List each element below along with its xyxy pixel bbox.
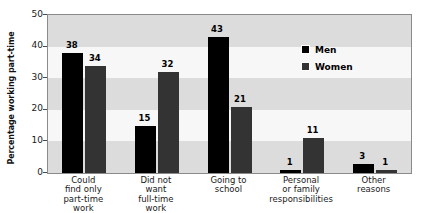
men-swatch-icon — [301, 45, 310, 54]
bar-women-group-3 — [303, 138, 324, 173]
x-axis-category-label: Couldfind onlypart-timework — [47, 176, 120, 213]
bar-women-group-4 — [376, 170, 397, 173]
bar-value-label: 1 — [369, 158, 402, 167]
bar-value-label: 34 — [78, 54, 111, 63]
bar-value-label: 15 — [128, 114, 161, 123]
bar-women-group-1 — [158, 72, 179, 173]
bar-value-label: 1 — [273, 158, 306, 167]
legend-item-men[interactable]: Men — [301, 42, 387, 57]
bar-men-group-2 — [208, 37, 229, 173]
bar-value-label: 43 — [201, 25, 234, 34]
chart-legend: Men Women — [301, 42, 387, 76]
legend-item-women[interactable]: Women — [301, 59, 387, 74]
bar-value-label: 38 — [55, 41, 88, 50]
bar-value-label: 21 — [224, 95, 257, 104]
y-axis-tick-label: 50 — [22, 10, 43, 19]
bar-women-group-0 — [85, 66, 106, 173]
legend-label-men: Men — [315, 45, 336, 55]
y-axis-tick-labels: 01020304050 — [22, 0, 43, 213]
women-swatch-icon — [301, 62, 310, 71]
bar-chart-figure: Percentage working part-time 01020304050… — [0, 0, 421, 213]
bar-women-group-2 — [231, 107, 252, 173]
y-axis-title: Percentage working part-time — [6, 18, 18, 178]
bar-men-group-0 — [62, 53, 83, 173]
legend-label-women: Women — [315, 62, 353, 72]
y-axis-tick-label: 30 — [22, 73, 43, 82]
x-axis-category-label: Did notwantfull-timework — [120, 176, 193, 213]
y-axis-tick-label: 40 — [22, 41, 43, 50]
x-axis-category-label: Personalor familyresponsibilities — [265, 176, 338, 204]
y-axis-tick-label: 0 — [22, 168, 43, 177]
bar-men-group-3 — [280, 170, 301, 173]
y-axis-tick-label: 10 — [22, 136, 43, 145]
y-axis-tick-label: 20 — [22, 104, 43, 113]
x-axis-category-labels: Couldfind onlypart-timeworkDid notwantfu… — [47, 176, 410, 213]
x-axis-category-label: Otherreasons — [337, 176, 410, 195]
bar-value-label: 32 — [151, 60, 184, 69]
bar-value-label: 11 — [296, 126, 329, 135]
x-axis-category-label: Going toschool — [192, 176, 265, 195]
bar-men-group-1 — [135, 126, 156, 173]
